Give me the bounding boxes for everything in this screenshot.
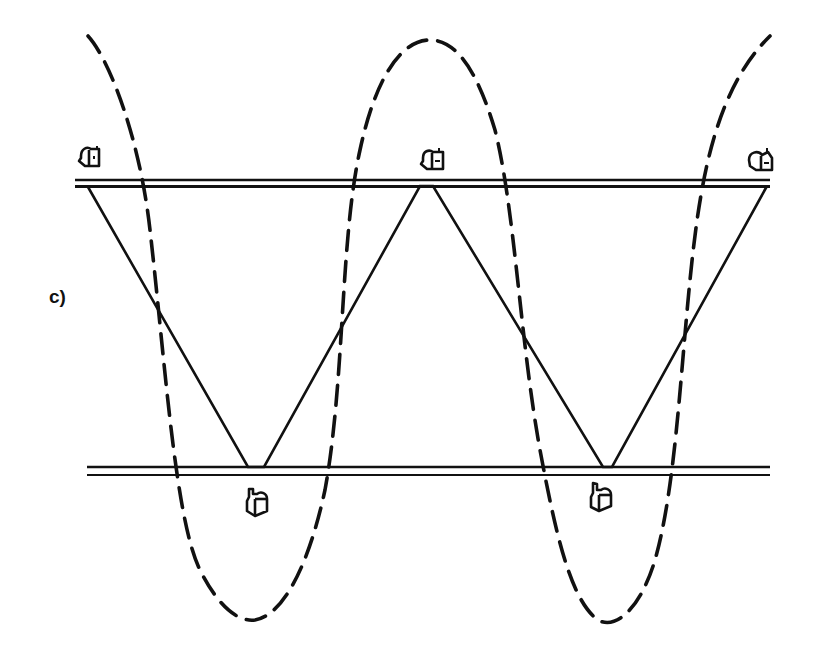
mailbox-icon	[79, 146, 99, 166]
zigzag-path	[88, 186, 767, 467]
panel-label: c)	[49, 286, 66, 308]
bottom-rail	[87, 467, 770, 475]
mailbox-icon	[749, 148, 772, 170]
diagram-canvas	[0, 0, 817, 665]
mailbox-icon	[247, 489, 267, 516]
dashed-wave-curve	[88, 36, 770, 623]
mailbox-icon	[421, 148, 443, 169]
mailbox-icon	[591, 483, 611, 511]
